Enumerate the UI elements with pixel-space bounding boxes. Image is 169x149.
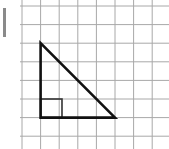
grid-diagram — [0, 0, 169, 149]
left-margin-bar — [3, 8, 6, 37]
grid-lines — [20, 0, 169, 149]
